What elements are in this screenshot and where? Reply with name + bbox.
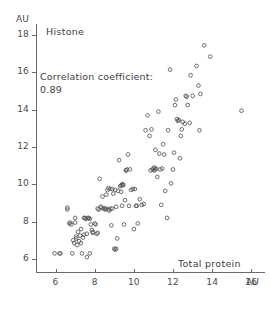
scatter-point	[198, 128, 202, 132]
scatter-point	[132, 227, 136, 231]
scatter-point	[185, 95, 189, 99]
scatter-point	[168, 68, 172, 72]
scatter-point	[124, 169, 128, 173]
scatter-point	[122, 223, 126, 227]
scatter-point	[123, 198, 127, 202]
scatter-point	[110, 224, 114, 228]
scatter-point	[85, 255, 89, 259]
scatter-point	[96, 231, 100, 235]
scatter-point	[96, 207, 100, 211]
scatter-point	[197, 84, 201, 88]
scatter-point	[114, 205, 118, 209]
scatter-point	[117, 158, 121, 162]
scatter-point	[188, 121, 192, 125]
scatter-point	[120, 204, 124, 208]
scatter-point	[171, 168, 175, 172]
scatter-point	[127, 204, 131, 208]
scatter-point	[154, 148, 158, 152]
scatter-point	[161, 142, 165, 146]
scatter-point	[88, 252, 92, 256]
scatter-point	[191, 94, 195, 98]
scatter-point	[73, 221, 77, 225]
scatter-point	[148, 134, 152, 138]
scatter-point	[166, 128, 170, 132]
scatter-point	[179, 134, 183, 138]
scatter-chart: AU Histone Correlation coefficient: 0.89…	[0, 0, 271, 312]
scatter-point	[195, 64, 199, 68]
scatter-point	[70, 252, 74, 256]
scatter-point	[180, 128, 184, 132]
scatter-point	[172, 151, 176, 155]
scatter-point	[159, 203, 163, 207]
scatter-point	[240, 109, 244, 113]
scatter-point	[202, 44, 206, 48]
scatter-point	[73, 216, 77, 220]
scatter-point	[94, 223, 98, 227]
scatter-point	[146, 114, 150, 118]
scatter-point	[173, 103, 177, 107]
scatter-point	[138, 197, 142, 201]
scatter-point	[89, 223, 93, 227]
scatter-point	[162, 153, 166, 157]
scatter-point	[174, 98, 178, 102]
scatter-point	[144, 128, 148, 132]
scatter-point	[80, 252, 84, 256]
scatter-point	[150, 128, 154, 132]
scatter-point	[101, 195, 105, 199]
scatter-point	[156, 175, 160, 179]
scatter-points-layer	[0, 0, 271, 312]
scatter-point	[115, 237, 119, 241]
scatter-point	[189, 73, 193, 77]
scatter-point	[208, 55, 212, 59]
scatter-point	[199, 92, 203, 96]
scatter-point	[163, 189, 167, 193]
scatter-point	[53, 252, 57, 256]
scatter-point	[156, 110, 160, 114]
scatter-point	[169, 182, 173, 186]
scatter-point	[126, 153, 130, 157]
scatter-point	[111, 192, 115, 196]
scatter-point	[75, 243, 79, 247]
scatter-point	[178, 156, 182, 160]
scatter-point	[165, 216, 169, 220]
scatter-point	[98, 177, 102, 181]
scatter-point	[79, 227, 83, 231]
scatter-point	[186, 103, 190, 107]
scatter-point	[157, 152, 161, 156]
scatter-point	[136, 222, 140, 226]
scatter-point	[105, 193, 109, 197]
